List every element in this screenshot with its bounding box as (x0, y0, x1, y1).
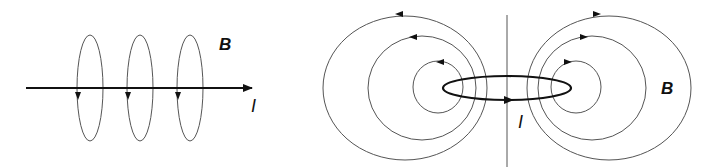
field-line-left-outer (323, 16, 487, 160)
field-direction-arrow-icon (436, 59, 444, 65)
current-direction-arrow-icon (504, 96, 514, 104)
field-direction-arrow-icon (564, 59, 572, 65)
diagram-canvas (0, 0, 713, 167)
field-label-right: B (661, 80, 673, 97)
field-line-left-inner (413, 61, 463, 113)
field-direction-arrow-icon (580, 34, 588, 40)
field-direction-arrow-icon (409, 34, 417, 40)
field-line-right-inner (551, 61, 601, 113)
field-direction-arrow-icon (175, 92, 181, 100)
current-loop-figure (323, 11, 691, 167)
field-line-left-middle (368, 36, 476, 140)
field-line-right-middle (538, 36, 646, 140)
current-label-left: I (251, 97, 256, 115)
field-label-left: B (219, 36, 231, 53)
current-label-right: I (518, 113, 523, 131)
field-direction-arrow-icon (125, 92, 131, 100)
field-direction-arrow-icon (75, 92, 81, 100)
